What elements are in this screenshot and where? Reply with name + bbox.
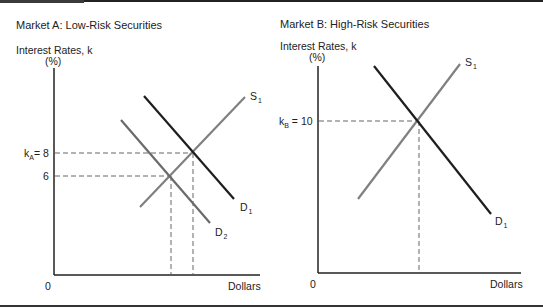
panel-a-label-d1: D1 (240, 201, 253, 215)
panel-b-label-d1: D1 (495, 215, 508, 229)
panel-a-x-axis-label: Dollars (228, 280, 261, 292)
panel-b-label-s1: S1 (465, 56, 477, 70)
panel-a-label-s1: S1 (250, 90, 262, 104)
panel-a-title: Market A: Low-Risk Securities (16, 19, 163, 31)
panel-market-b: Market B: High-Risk Securities Interest … (279, 18, 523, 290)
panel-b-demand-d1 (374, 66, 491, 214)
panel-a-origin-label: 0 (45, 280, 51, 292)
panel-b-title: Market B: High-Risk Securities (280, 18, 430, 30)
panel-a-y-axis-unit: (%) (45, 55, 61, 67)
panel-a-demand-d1 (144, 96, 234, 199)
panel-b-y-axis-unit: (%) (309, 51, 325, 63)
panel-b-x-axis-label: Dollars (490, 278, 523, 290)
panel-b-tick-kb: kB = 10 (279, 115, 313, 129)
panel-a-tick-ka: kA= 8 (24, 147, 49, 161)
panel-b-origin-label: 0 (310, 278, 316, 290)
panel-a-demand-d2 (121, 120, 210, 223)
panel-market-a: Market A: Low-Risk Securities Interest R… (16, 19, 262, 292)
supply-demand-diagram: Market A: Low-Risk Securities Interest R… (0, 0, 543, 308)
panel-b-supply-s1 (358, 64, 460, 199)
panel-a-label-d2: D2 (215, 226, 228, 240)
panel-a-tick-6: 6 (43, 170, 49, 182)
